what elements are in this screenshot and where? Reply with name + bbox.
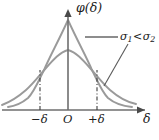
legend-sigma1-subscript: 1 [128, 35, 133, 44]
tick-label-negative-delta: −δ [31, 114, 48, 126]
tick-label-positive-delta: +δ [88, 114, 105, 126]
distribution-figure: φ(δ) δ −δ O +δ σ1<σ2 [0, 0, 159, 140]
y-axis-arrow-icon [64, 9, 71, 17]
y-axis-label: φ(δ) [76, 2, 102, 15]
legend-relation: < [133, 30, 143, 43]
legend-sigma2-subscript: 2 [150, 35, 155, 44]
legend-label: σ1<σ2 [120, 31, 155, 44]
x-axis-label: δ [143, 113, 151, 126]
curve-sigma2 [2, 50, 136, 105]
plot-canvas [0, 0, 159, 140]
legend-leader-line [104, 44, 128, 86]
tick-label-origin: O [63, 114, 72, 126]
legend-sigma1: σ [120, 30, 128, 43]
